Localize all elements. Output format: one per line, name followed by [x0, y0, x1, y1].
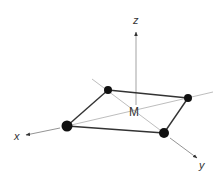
- x-axis-label: x: [13, 130, 20, 142]
- ligand-right: [184, 94, 192, 102]
- z-axis-label: z: [132, 14, 139, 26]
- edge-right: [164, 98, 188, 133]
- edge-top: [108, 90, 188, 98]
- center-label: M: [129, 105, 139, 119]
- square-planar-diagram: M z x y: [0, 0, 224, 180]
- y-axis-arrow: [170, 138, 197, 158]
- y-axis-label: y: [198, 159, 206, 171]
- ligand-left: [62, 121, 73, 132]
- edge-bottom: [67, 126, 164, 133]
- x-axis-arrow: [26, 128, 60, 135]
- axis-lines: [26, 32, 213, 158]
- ligand-top-left: [104, 86, 112, 94]
- ligand-bottom: [159, 128, 169, 138]
- edge-left: [67, 90, 108, 126]
